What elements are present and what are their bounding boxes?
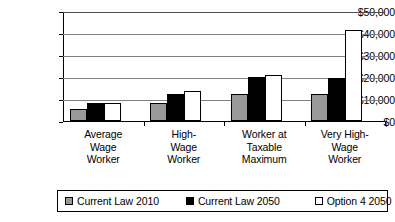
bar	[265, 75, 282, 121]
legend-entry: Option 4 2050	[315, 195, 392, 207]
y-axis-tick-mark	[59, 122, 63, 123]
bar	[104, 103, 121, 121]
x-axis-tick-mark	[224, 122, 225, 126]
bar	[231, 94, 248, 121]
gridline	[63, 34, 385, 35]
plot-area	[63, 12, 385, 122]
legend-label: Option 4 2050	[327, 195, 392, 207]
x-axis-tick-mark	[385, 122, 386, 126]
y-axis-tick-mark	[59, 56, 63, 57]
bar	[345, 30, 362, 121]
bar	[70, 109, 87, 121]
x-axis-category-label: Worker at Taxable Maximum	[224, 128, 305, 166]
legend-swatch-icon	[315, 197, 323, 205]
bar	[167, 94, 184, 122]
y-axis-tick-mark	[59, 34, 63, 35]
legend-label: Current Law 2050	[198, 195, 280, 207]
bar-chart-figure: $0$10,000$20,000$30,000$40,000$50,000 Av…	[0, 0, 395, 222]
bar	[87, 103, 104, 121]
legend-swatch-icon	[186, 197, 194, 205]
x-axis-category-label: Average Wage Worker	[63, 128, 144, 166]
legend-entry: Current Law 2010	[65, 195, 159, 207]
bar	[311, 94, 328, 121]
x-axis-category-label: High- Wage Worker	[144, 128, 225, 166]
gridline	[63, 12, 385, 13]
gridline	[63, 56, 385, 57]
x-axis-category-label: Very High- Wage Worker	[305, 128, 386, 166]
y-axis-tick-mark	[59, 100, 63, 101]
y-axis-tick-mark	[59, 12, 63, 13]
bar	[248, 77, 265, 121]
x-axis-tick-mark	[144, 122, 145, 126]
bar	[328, 78, 345, 121]
y-axis-line	[63, 12, 64, 122]
legend-entry: Current Law 2050	[186, 195, 280, 207]
legend-swatch-icon	[65, 197, 73, 205]
bar	[184, 91, 201, 121]
legend-label: Current Law 2010	[77, 195, 159, 207]
y-axis-tick-mark	[59, 78, 63, 79]
bar	[150, 103, 167, 121]
chart-legend: Current Law 2010Current Law 2050Option 4…	[57, 190, 388, 212]
x-axis-tick-mark	[305, 122, 306, 126]
